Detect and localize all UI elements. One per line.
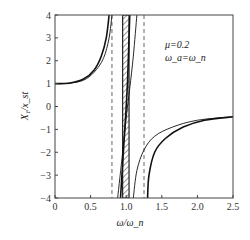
plot-area (55, 15, 233, 198)
chart: 00.51.01.52.02.543210−1−2−3−4 μ=0.2 ω_a=… (0, 0, 250, 240)
y-tick-label: 1 (46, 78, 51, 89)
axes: 00.51.01.52.02.543210−1−2−3−4 (40, 10, 239, 213)
y-tick-label: 2 (46, 55, 51, 66)
x-tick-label: 2.0 (191, 201, 204, 212)
x-tick-label: 0.5 (84, 201, 97, 212)
y-tick-label: −4 (40, 193, 51, 204)
thick-curve-branch-2 (148, 117, 233, 198)
x-tick-label: 2.5 (227, 201, 240, 212)
y-tick-label: 4 (46, 10, 51, 21)
mu-annotation: μ=0.2 (164, 39, 189, 50)
x-tick-label: 1.5 (156, 201, 169, 212)
x-tick-label: 0 (53, 201, 58, 212)
y-tick-label: −1 (40, 124, 51, 135)
y-tick-label: −3 (40, 170, 51, 181)
x-axis-label: ω/ω_n (117, 217, 144, 228)
omega-annotation: ω_a=ω_n (165, 52, 206, 63)
y-axis-label: X₁/x_st (19, 92, 30, 122)
thick-curve-branch-0 (55, 15, 109, 84)
y-tick-label: 0 (46, 101, 51, 112)
y-tick-label: 3 (46, 32, 51, 43)
x-tick-label: 1.0 (120, 201, 133, 212)
y-tick-label: −2 (40, 147, 51, 158)
